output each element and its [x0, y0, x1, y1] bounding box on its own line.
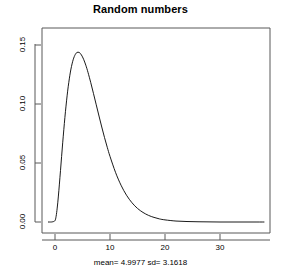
y-axis-ticks — [35, 45, 41, 222]
x-tick-label: 10 — [98, 243, 122, 252]
y-tick-label: 0.05 — [18, 151, 27, 175]
chart-subcaption: mean= 4.9977 sd= 3.1618 — [0, 258, 281, 268]
x-axis-ticks — [55, 234, 220, 240]
density-curve — [48, 52, 264, 222]
chart-canvas: Random numbers Density 0102030 0.000.050… — [0, 0, 281, 278]
y-tick-label: 0.15 — [18, 33, 27, 57]
y-tick-label: 0.10 — [18, 92, 27, 116]
x-tick-label: 30 — [208, 243, 232, 252]
x-tick-label: 0 — [43, 243, 67, 252]
y-tick-label: 0.00 — [18, 210, 27, 234]
plot-frame — [42, 28, 270, 233]
x-tick-label: 20 — [153, 243, 177, 252]
plot-area — [0, 0, 281, 278]
